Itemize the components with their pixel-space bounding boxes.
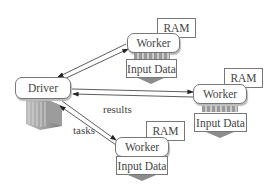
worker-2-disk-icon xyxy=(202,106,238,112)
worker-2-node: Worker xyxy=(193,84,247,104)
worker-label: Worker xyxy=(136,37,170,49)
input-data-label: Input Data xyxy=(118,160,167,172)
ram-label: RAM xyxy=(152,125,178,137)
worker-label: Worker xyxy=(203,88,237,100)
driver-node: Driver xyxy=(15,77,71,99)
input-data-label: Input Data xyxy=(196,117,245,129)
ram-label: RAM xyxy=(230,72,256,84)
worker-1-node: Worker xyxy=(127,33,180,53)
server-icon xyxy=(26,100,62,130)
input-data-label: Input Data xyxy=(127,63,176,75)
driver-label: Driver xyxy=(28,82,58,94)
worker-3-node: Worker xyxy=(115,137,169,157)
worker-1-input-data: Input Data xyxy=(126,59,177,78)
tasks-label: tasks xyxy=(73,124,95,136)
worker-3-input-data: Input Data xyxy=(116,156,168,175)
worker-2-input-data: Input Data xyxy=(194,113,247,132)
worker-label: Worker xyxy=(125,141,159,153)
results-label: results xyxy=(103,103,132,115)
